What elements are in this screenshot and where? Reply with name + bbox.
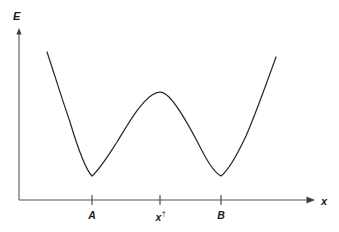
y-axis-arrowhead [16, 28, 21, 35]
energy-curve [47, 52, 276, 176]
tick-label-B: B [214, 210, 228, 221]
y-axis-label: E [13, 11, 20, 22]
dagger-symbol: † [162, 209, 166, 218]
plot-canvas [0, 0, 339, 232]
tick-label-x-dagger: x† [151, 210, 170, 222]
potential-energy-diagram: E x A x† B [0, 0, 339, 232]
tick-label-x-dagger-base: x [155, 211, 161, 223]
tick-label-A: A [85, 210, 99, 221]
x-axis-label: x [321, 196, 327, 207]
x-axis-arrowhead [307, 197, 316, 204]
